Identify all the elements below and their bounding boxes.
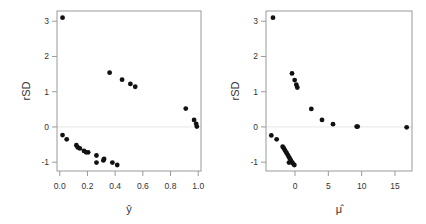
x-tick-label: 0.0 bbox=[54, 181, 66, 191]
x-tick-label: 10 bbox=[357, 181, 367, 191]
x-tick-label: 0.2 bbox=[82, 181, 94, 191]
x-tick-label: 0.6 bbox=[137, 181, 149, 191]
data-point bbox=[183, 106, 188, 111]
x-tick-label: 5 bbox=[326, 181, 331, 191]
x-tick-label: 0 bbox=[293, 181, 298, 191]
data-point bbox=[86, 150, 91, 155]
x-tick-label: 1.0 bbox=[192, 181, 204, 191]
panel-muhat: -10123051015μ̂rSD bbox=[229, 11, 412, 215]
data-point bbox=[60, 133, 65, 138]
data-point bbox=[77, 146, 82, 151]
data-point bbox=[271, 15, 276, 20]
y-tick-label: -1 bbox=[41, 157, 49, 167]
data-point bbox=[331, 122, 336, 127]
x-tick-label: 0.4 bbox=[109, 181, 121, 191]
data-point bbox=[274, 137, 279, 142]
scatter-plot-figure: -101230.00.20.40.60.81.0ŷrSD -1012305101… bbox=[0, 0, 426, 224]
data-point bbox=[120, 77, 125, 82]
y-tick-label: 2 bbox=[44, 51, 49, 61]
x-tick-label: 0.8 bbox=[165, 181, 177, 191]
data-point bbox=[128, 82, 133, 87]
y-tick-label: 2 bbox=[253, 51, 258, 61]
x-axis-title: ŷ bbox=[126, 203, 132, 215]
data-point bbox=[309, 107, 314, 112]
data-point bbox=[94, 160, 99, 165]
y-axis-title: rSD bbox=[229, 81, 241, 100]
data-point bbox=[107, 70, 112, 75]
y-tick-label: 0 bbox=[253, 122, 258, 132]
data-point bbox=[64, 137, 69, 142]
x-axis-title: μ̂ bbox=[336, 203, 344, 215]
panel-yhat: -101230.00.20.40.60.81.0ŷrSD bbox=[20, 11, 204, 215]
data-point bbox=[60, 15, 65, 20]
data-point bbox=[110, 160, 115, 165]
data-point bbox=[295, 85, 300, 90]
data-point bbox=[355, 124, 360, 129]
y-tick-label: 1 bbox=[44, 87, 49, 97]
data-point bbox=[292, 163, 297, 168]
y-axis-title: rSD bbox=[20, 81, 32, 100]
data-point bbox=[404, 125, 409, 130]
y-tick-label: 3 bbox=[253, 16, 258, 26]
y-tick-label: -1 bbox=[250, 157, 258, 167]
data-point bbox=[102, 157, 107, 162]
data-point bbox=[94, 153, 99, 158]
data-point bbox=[320, 117, 325, 122]
data-point bbox=[292, 78, 297, 83]
data-point bbox=[290, 71, 295, 76]
y-tick-label: 3 bbox=[44, 16, 49, 26]
y-tick-label: 0 bbox=[44, 122, 49, 132]
data-point bbox=[115, 163, 120, 168]
data-point bbox=[194, 124, 199, 129]
plot-frame bbox=[266, 11, 412, 171]
data-point bbox=[269, 133, 274, 138]
y-tick-label: 1 bbox=[253, 87, 258, 97]
x-tick-label: 15 bbox=[390, 181, 400, 191]
data-point bbox=[133, 84, 138, 89]
